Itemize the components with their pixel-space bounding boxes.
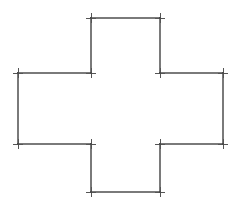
vertex-point <box>159 17 161 19</box>
vertex-marker-right-arm-top <box>218 68 228 78</box>
vertex-point <box>90 191 92 193</box>
vertex-point <box>90 143 92 145</box>
vertex-point <box>159 191 161 193</box>
vertex-point <box>17 143 19 145</box>
vertex-marker-bottom-arm-right <box>155 187 165 197</box>
vertex-point <box>159 72 161 74</box>
vertex-marker-upper-left-inner <box>86 68 96 78</box>
polygon-outline-group <box>18 18 223 192</box>
vertex-marker-upper-right-inner <box>155 68 165 78</box>
vertex-marker-top-arm-right <box>155 13 165 23</box>
vertex-marker-bottom-arm-left <box>86 187 96 197</box>
vertex-marker-left-arm-top <box>13 68 23 78</box>
vertex-marker-right-arm-bottom <box>218 139 228 149</box>
vertex-point <box>90 72 92 74</box>
vertex-point <box>222 143 224 145</box>
vertex-marker-lower-right-inner <box>155 139 165 149</box>
vertex-point <box>90 17 92 19</box>
cross-polygon-plot <box>0 0 247 209</box>
vertex-marker-left-arm-bottom <box>13 139 23 149</box>
vertex-marker-group <box>13 13 228 197</box>
figure-canvas <box>0 0 247 209</box>
vertex-marker-lower-left-inner <box>86 139 96 149</box>
vertex-marker-top-arm-left <box>86 13 96 23</box>
vertex-point <box>222 72 224 74</box>
vertex-point <box>17 72 19 74</box>
cross-polygon-outline <box>18 18 223 192</box>
vertex-point <box>159 143 161 145</box>
